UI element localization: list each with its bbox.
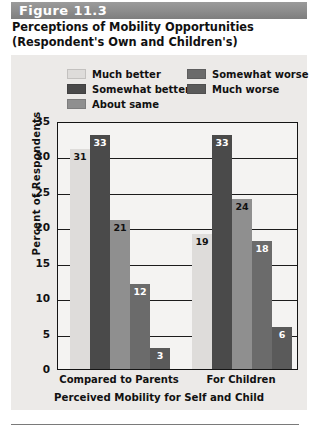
bar-value-label: 19	[192, 236, 212, 247]
x-axis-group-label: Compared to Parents	[51, 374, 187, 385]
legend-label-much-better: Much better	[92, 69, 161, 80]
legend-swatch-much-worse	[187, 84, 206, 94]
bar: 6	[272, 327, 292, 370]
legend-swatch-somewhat-better	[67, 84, 86, 94]
bar-value-label: 24	[232, 201, 252, 212]
figure-container: Figure 11.3 Perceptions of Mobility Oppo…	[0, 0, 312, 433]
y-axis-tick-label: 25	[26, 186, 50, 198]
y-axis-tick-label: 20	[26, 221, 50, 233]
bar-value-label: 31	[70, 151, 90, 162]
legend-item-somewhat-worse: Somewhat worse	[187, 67, 308, 81]
bar: 3	[150, 348, 170, 369]
bar-value-label: 6	[272, 329, 292, 340]
legend-item-somewhat-better: Somewhat better	[67, 82, 190, 96]
legend-label-somewhat-better: Somewhat better	[92, 84, 190, 95]
legend-column-right: Somewhat worse Much worse	[187, 67, 308, 97]
figure-number-label: Figure 11.3	[19, 3, 107, 18]
plot-area: 313321123193324186	[57, 122, 298, 370]
legend-swatch-much-better	[67, 69, 86, 79]
bottom-divider	[11, 424, 299, 425]
figure-title-line-2: (Respondent's Own and Children's)	[12, 35, 304, 50]
y-axis-tick-label: 10	[26, 292, 50, 304]
legend-label-about-same: About same	[92, 99, 159, 110]
legend-label-somewhat-worse: Somewhat worse	[212, 69, 308, 80]
legend-item-much-better: Much better	[67, 67, 190, 81]
y-axis-title: Percent of Respondents	[31, 104, 42, 264]
legend-swatch-about-same	[67, 99, 86, 109]
bar: 31	[70, 149, 90, 369]
bar: 19	[192, 234, 212, 369]
figure-title: Perceptions of Mobility Opportunities (R…	[12, 20, 304, 49]
bar-value-label: 18	[252, 243, 272, 254]
bar-value-label: 12	[130, 286, 150, 297]
figure-title-line-1: Perceptions of Mobility Opportunities	[12, 20, 304, 35]
bar-value-label: 33	[90, 137, 110, 148]
figure-header-band: Figure 11.3	[11, 2, 307, 19]
bar: 18	[252, 241, 272, 369]
bar-value-label: 3	[150, 350, 170, 361]
y-axis-tick-label: 35	[26, 115, 50, 127]
bar: 33	[212, 135, 232, 369]
y-axis-tick-label: 30	[26, 150, 50, 162]
bar: 24	[232, 199, 252, 369]
bar-value-label: 21	[110, 222, 130, 233]
bar: 21	[110, 220, 130, 369]
x-axis-title: Perceived Mobility for Self and Child	[11, 392, 307, 403]
chart-legend: Much better Somewhat better About same S…	[67, 67, 303, 111]
bar: 33	[90, 135, 110, 369]
y-axis-tick-label: 5	[26, 328, 50, 340]
x-axis-group-label: For Children	[173, 374, 309, 385]
y-axis-tick-label: 15	[26, 257, 50, 269]
legend-item-about-same: About same	[67, 97, 190, 111]
legend-column-left: Much better Somewhat better About same	[67, 67, 190, 112]
legend-label-much-worse: Much worse	[212, 84, 279, 95]
legend-item-much-worse: Much worse	[187, 82, 308, 96]
bar-value-label: 33	[212, 137, 232, 148]
legend-swatch-somewhat-worse	[187, 69, 206, 79]
y-axis-tick-label: 0	[26, 363, 50, 375]
bar: 12	[130, 284, 150, 369]
